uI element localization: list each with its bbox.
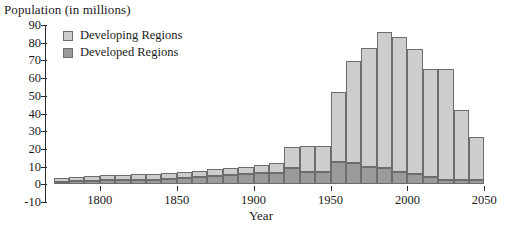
y-tick-label: 80 [29,37,42,50]
x-tick-label: 1950 [318,193,343,208]
legend-label-developing: Developing Regions [80,28,182,43]
x-tick-label: 2000 [395,193,420,208]
bar-segment-developing [315,146,330,173]
y-tick-label: 70 [29,54,42,67]
bar-1820 [131,174,146,184]
x-tick-mark [407,186,408,191]
bar-segment-developed [223,175,238,184]
bar-segment-developed [161,179,176,184]
y-tick-label: -10 [24,196,41,209]
bar-1780 [69,177,84,185]
y-tick-label: 60 [29,72,42,85]
bar-segment-developed [207,176,222,184]
bar-segment-developed [238,174,253,184]
bar-segment-developed [192,177,207,184]
chart-title: Population (in millions) [4,2,131,18]
bar-segment-developed [331,162,346,184]
bar-segment-developed [438,180,453,185]
bar-1880 [223,168,238,184]
bar-segment-developed [454,180,469,184]
bar-segment-developing [454,110,469,180]
bar-segment-developing [469,137,484,181]
population-bar-chart: Population (in millions) 908070605040302… [0,0,522,233]
bar-1870 [207,169,222,184]
x-tick-mark [100,186,101,191]
bar-1970 [361,48,376,184]
bar-segment-developed [377,168,392,184]
bar-segment-developed [361,167,376,184]
bar-segment-developing [361,48,376,167]
bar-1800 [100,175,115,184]
bar-segment-developed [146,180,161,185]
legend-label-developed: Developed Regions [80,45,178,60]
bar-1990 [392,37,407,185]
x-tick-label: 1800 [87,193,112,208]
bar-1830 [146,174,161,185]
y-tick-label: 50 [29,90,42,103]
legend-item-developed: Developed Regions [63,45,182,60]
bar-segment-developed [177,178,192,184]
bar-segment-developed [469,180,484,184]
bar-segment-developing [423,69,438,177]
bar-1840 [161,173,176,185]
bar-segment-developing [438,69,453,180]
bar-segment-developed [346,163,361,184]
bar-segment-developing [346,61,361,163]
bar-segment-developed [392,172,407,184]
bar-segment-developed [284,168,299,184]
bar-1790 [84,176,99,184]
bar-segment-developed [69,181,84,185]
bar-segment-developing [269,163,284,172]
bar-segment-developed [315,172,330,184]
bar-2020 [438,69,453,184]
x-tick-mark [177,186,178,191]
bar-segment-developed [131,180,146,184]
bar-segment-developing [284,147,299,168]
bar-1810 [115,175,130,185]
bar-segment-developing [407,49,422,174]
x-tick-label: 1900 [241,193,266,208]
bar-segment-developed [254,173,269,184]
bar-1920 [284,147,299,184]
bar-segment-developing [238,167,253,174]
y-tick-label: 30 [29,125,42,138]
bar-1910 [269,163,284,184]
bar-1850 [177,172,192,184]
bar-1860 [192,171,207,184]
x-tick-label: 2050 [472,193,497,208]
bar-1930 [300,146,315,184]
bar-2000 [407,49,422,184]
bar-segment-developing [377,32,392,169]
dark-gray-swatch-icon [63,48,73,58]
bar-2040 [469,137,484,185]
x-tick-mark [331,186,332,191]
bar-2010 [423,69,438,184]
x-tick-label: 1850 [164,193,189,208]
legend-item-developing: Developing Regions [63,28,182,43]
y-tick-label: 10 [29,161,42,174]
y-tick-label: 40 [29,108,42,121]
bar-1950 [331,92,346,185]
bar-segment-developed [269,173,284,185]
bar-segment-developing [392,37,407,172]
bar-segment-developed [423,177,438,185]
bar-1980 [377,32,392,185]
bar-segment-developing [331,92,346,162]
bar-segment-developing [300,146,315,172]
x-tick-mark [254,186,255,191]
chart-legend: Developing Regions Developed Regions [63,28,182,62]
bar-1940 [315,146,330,185]
bar-segment-developed [300,172,315,184]
bar-segment-developed [407,174,422,184]
bar-1770 [54,178,69,184]
y-tick-label: 20 [29,143,42,156]
bar-segment-developed [100,180,115,184]
bar-segment-developed [84,181,99,185]
bar-segment-developed [54,182,69,185]
y-tick-label: 90 [29,19,42,32]
bar-1900 [254,165,269,185]
bar-1960 [346,61,361,184]
x-tick-mark [484,186,485,191]
bar-2030 [454,110,469,184]
bar-segment-developing [254,165,269,174]
